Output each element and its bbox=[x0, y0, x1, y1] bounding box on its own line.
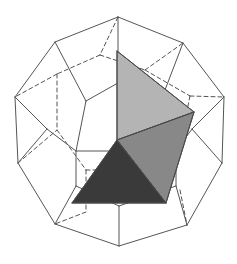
geometric-figure bbox=[0, 0, 237, 264]
figure-container bbox=[0, 0, 237, 264]
